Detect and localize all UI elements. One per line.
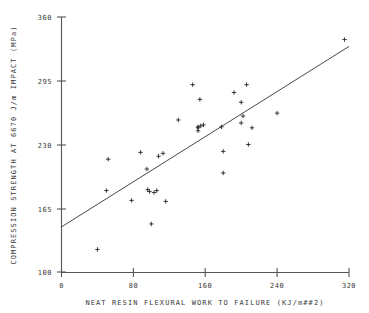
data-point <box>244 82 248 86</box>
data-point <box>275 111 279 115</box>
x-tick-label-160: 160 <box>198 282 212 290</box>
data-point <box>241 114 245 118</box>
chart-root: 360 295 230 165 100 0 80 160 240 320 NEA… <box>0 0 369 313</box>
data-point <box>221 149 225 153</box>
data-point <box>342 37 346 41</box>
data-point <box>239 121 243 125</box>
data-point-group <box>95 37 346 251</box>
x-tick-label-0: 0 <box>59 282 64 290</box>
data-point <box>201 123 205 127</box>
data-point <box>198 97 202 101</box>
data-point <box>156 154 160 158</box>
data-point <box>161 151 165 155</box>
data-point <box>239 100 243 104</box>
regression-line <box>62 46 350 226</box>
data-point <box>164 199 168 203</box>
x-tick-label-320: 320 <box>342 282 356 290</box>
y-tick-label-295: 295 <box>38 78 52 86</box>
data-point <box>95 247 99 251</box>
data-point <box>149 222 153 226</box>
x-axis-title: NEAT RESIN FLEXURAL WORK TO FAILURE (KJ/… <box>85 299 324 307</box>
data-point <box>246 142 250 146</box>
y-tick-label-230: 230 <box>38 142 52 150</box>
data-point <box>190 82 194 86</box>
data-point <box>221 171 225 175</box>
y-axis-title: COMPRESSION STRENGTH AT 6670 J/m IMPACT … <box>10 25 18 264</box>
data-point <box>145 167 149 171</box>
scatter-plot: 360 295 230 165 100 0 80 160 240 320 NEA… <box>0 0 369 313</box>
data-point <box>138 150 142 154</box>
x-tick-label-240: 240 <box>270 282 284 290</box>
x-tick-label-80: 80 <box>129 282 138 290</box>
data-point <box>232 90 236 94</box>
data-point <box>104 188 108 192</box>
data-point <box>106 157 110 161</box>
data-point <box>176 118 180 122</box>
y-tick-label-360: 360 <box>38 14 52 22</box>
data-point <box>250 126 254 130</box>
data-point <box>129 198 133 202</box>
y-tick-label-165: 165 <box>38 206 52 214</box>
plot-svg: 360 295 230 165 100 0 80 160 240 320 NEA… <box>0 0 369 313</box>
y-tick-label-100: 100 <box>38 269 52 277</box>
